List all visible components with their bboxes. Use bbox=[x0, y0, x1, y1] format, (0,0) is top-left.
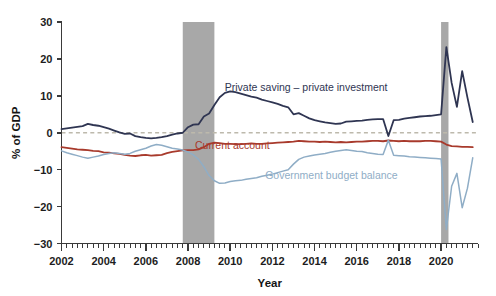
y-tick-label: 20 bbox=[40, 53, 52, 65]
y-tick-label: 30 bbox=[40, 16, 52, 28]
y-tick-label: −20 bbox=[34, 201, 53, 213]
chart-canvas: −30−20−100102030 20022004200620082010201… bbox=[0, 0, 496, 296]
x-axis bbox=[62, 244, 479, 251]
y-tick-label: −30 bbox=[34, 238, 53, 250]
x-axis-title: Year bbox=[258, 277, 283, 289]
x-tick-label: 2012 bbox=[260, 255, 284, 267]
chart-figure: −30−20−100102030 20022004200620082010201… bbox=[0, 0, 496, 296]
series-line-2 bbox=[62, 140, 473, 229]
x-tick-label: 2016 bbox=[344, 255, 368, 267]
series-annotation-0: Private saving – private investment bbox=[225, 81, 388, 93]
x-tick-label: 2002 bbox=[49, 255, 73, 267]
x-tick-label: 2006 bbox=[134, 255, 158, 267]
y-tick-label: 10 bbox=[40, 90, 52, 102]
y-tick-label: 0 bbox=[46, 127, 52, 139]
y-axis-title: % of GDP bbox=[10, 106, 22, 159]
y-axis bbox=[57, 22, 62, 244]
series-annotations: Private saving – private investmentCurre… bbox=[195, 81, 398, 180]
series-annotation-2: Government budget balance bbox=[265, 169, 398, 181]
x-tick-label: 2018 bbox=[387, 255, 411, 267]
x-tick-label: 2004 bbox=[91, 255, 116, 267]
series-annotation-1: Current account bbox=[195, 139, 270, 151]
x-tick-label: 2008 bbox=[176, 255, 200, 267]
x-tick-label: 2014 bbox=[302, 255, 327, 267]
y-tick-labels: −30−20−100102030 bbox=[34, 16, 53, 250]
x-tick-labels: 2002200420062008201020122014201620182020 bbox=[49, 255, 453, 267]
x-tick-label: 2020 bbox=[429, 255, 453, 267]
x-tick-label: 2010 bbox=[218, 255, 242, 267]
y-tick-label: −10 bbox=[34, 164, 53, 176]
series-lines bbox=[62, 47, 473, 229]
